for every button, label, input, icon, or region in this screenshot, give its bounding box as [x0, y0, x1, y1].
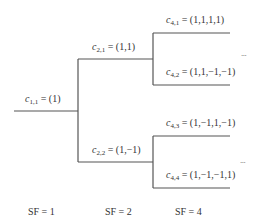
- node-label-c44: c4,4 = (1,−1,−1,1): [166, 170, 235, 182]
- code-value: = (1,−1,−1,1): [182, 169, 236, 180]
- code-index: 1,1: [29, 98, 38, 106]
- node-label-c42: c4,2 = (1,1,−1,−1): [166, 67, 235, 79]
- node-label-c43: c4,3 = (1,−1,1,−1): [166, 118, 235, 130]
- node-label-c11: c1,1 = (1): [25, 94, 61, 106]
- code-index: 2,1: [96, 46, 105, 54]
- ellipsis-icon-bottom: ...: [240, 155, 245, 165]
- code-value: = (1,1,1,1): [182, 14, 224, 25]
- node-label-c21: c2,1 = (1,1): [92, 42, 135, 54]
- ellipsis-icon-top: ...: [241, 48, 246, 58]
- code-index: 4,3: [170, 122, 179, 130]
- code-index: 4,4: [170, 174, 179, 182]
- code-index: 2,2: [96, 149, 105, 157]
- node-label-c22: c2,2 = (1,−1): [92, 145, 141, 157]
- code-value: = (1,−1,1,−1): [182, 117, 236, 128]
- code-value: = (1,−1): [108, 144, 141, 155]
- sf-label-4: SF = 4: [175, 206, 202, 217]
- node-label-c41: c4,1 = (1,1,1,1): [166, 15, 224, 27]
- sf-label-2: SF = 2: [105, 206, 132, 217]
- code-index: 4,2: [170, 71, 179, 79]
- code-value: = (1,1): [108, 41, 135, 52]
- code-value: = (1): [41, 93, 61, 104]
- code-index: 4,1: [170, 19, 179, 27]
- code-value: = (1,1,−1,−1): [182, 66, 236, 77]
- code-tree-lines: [0, 0, 260, 224]
- sf-label-1: SF = 1: [28, 206, 55, 217]
